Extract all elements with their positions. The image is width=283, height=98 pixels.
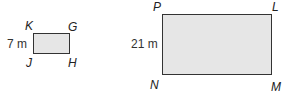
vertex-l: L bbox=[272, 1, 279, 13]
vertex-k: K bbox=[25, 20, 33, 32]
small-side-length: 7 m bbox=[7, 38, 27, 50]
vertex-m: M bbox=[271, 81, 281, 93]
small-rectangle bbox=[33, 33, 70, 54]
vertex-g: G bbox=[68, 21, 77, 33]
vertex-p: P bbox=[153, 1, 161, 13]
large-rectangle bbox=[162, 14, 272, 75]
vertex-j: J bbox=[26, 57, 32, 69]
large-side-length: 21 m bbox=[131, 38, 158, 50]
vertex-n: N bbox=[150, 79, 159, 91]
vertex-h: H bbox=[68, 57, 77, 69]
